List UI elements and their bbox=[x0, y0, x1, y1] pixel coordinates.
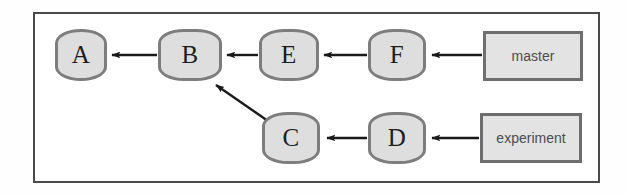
commit-node-e[interactable]: E bbox=[259, 29, 319, 81]
commit-node-c[interactable]: C bbox=[262, 112, 320, 164]
diagram-canvas: A B E F C D master experiment bbox=[0, 0, 627, 194]
commit-label: B bbox=[181, 41, 198, 69]
branch-label-text: master bbox=[512, 48, 555, 64]
commit-node-d[interactable]: D bbox=[368, 112, 426, 164]
commit-label: C bbox=[282, 124, 299, 152]
commit-node-a[interactable]: A bbox=[55, 29, 107, 81]
commit-node-b[interactable]: B bbox=[158, 29, 222, 81]
commit-label: E bbox=[281, 41, 297, 69]
commit-node-f[interactable]: F bbox=[368, 29, 426, 81]
commit-label: A bbox=[72, 41, 91, 69]
branch-label-text: experiment bbox=[496, 130, 565, 146]
branch-label-master[interactable]: master bbox=[483, 31, 583, 81]
commit-label: F bbox=[390, 41, 404, 69]
branch-label-experiment[interactable]: experiment bbox=[480, 113, 582, 163]
commit-label: D bbox=[388, 124, 407, 152]
